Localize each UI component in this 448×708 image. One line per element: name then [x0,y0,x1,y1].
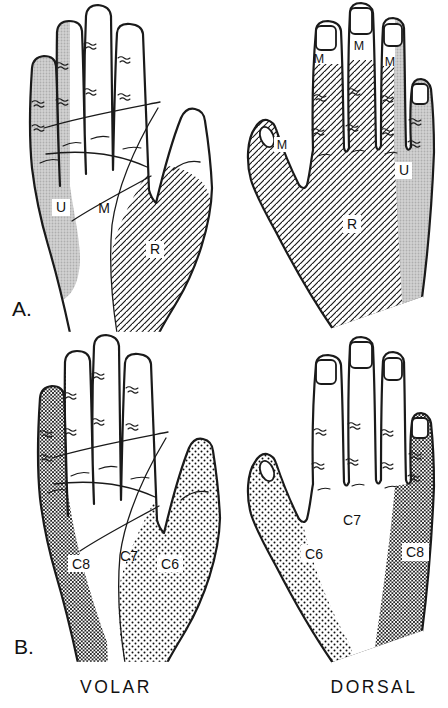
hand-volar-panel-a: U M R [22,5,213,341]
c8-label-volar: C8 [72,556,90,572]
figure-hand-innervation-diagram: U M R M M M M U R [0,0,448,708]
panel-b-label: B. [14,635,34,658]
panel-a-label: A. [12,297,32,320]
ulnar-nerve-label-dorsal: U [399,162,409,178]
median-index-label: M [314,52,324,66]
median-nerve-label: M [98,200,110,216]
radial-nerve-label: R [150,241,160,257]
hand-volar-panel-b: C8 C7 C6 [30,335,221,671]
c7-label-volar: C7 [120,548,138,564]
hand-dorsal-panel-a: M M M M U R [240,0,440,338]
caption-dorsal: DORSAL [331,677,418,697]
c6-label-volar: C6 [161,556,179,572]
hand-dorsal-panel-b: C6 C7 C8 [240,337,436,672]
ulnar-nerve-label: U [56,199,66,215]
median-ring-label: M [385,55,395,69]
c8-label-dorsal: C8 [406,544,424,560]
c6-label-dorsal: C6 [305,546,323,562]
caption-volar: VOLAR [80,677,152,697]
median-middle-label: M [354,39,364,53]
radial-nerve-label-dorsal: R [347,216,357,232]
c7-label-dorsal: C7 [343,512,361,528]
median-thumb-label: M [277,138,287,152]
diagram-canvas: U M R M M M M U R [0,0,448,708]
